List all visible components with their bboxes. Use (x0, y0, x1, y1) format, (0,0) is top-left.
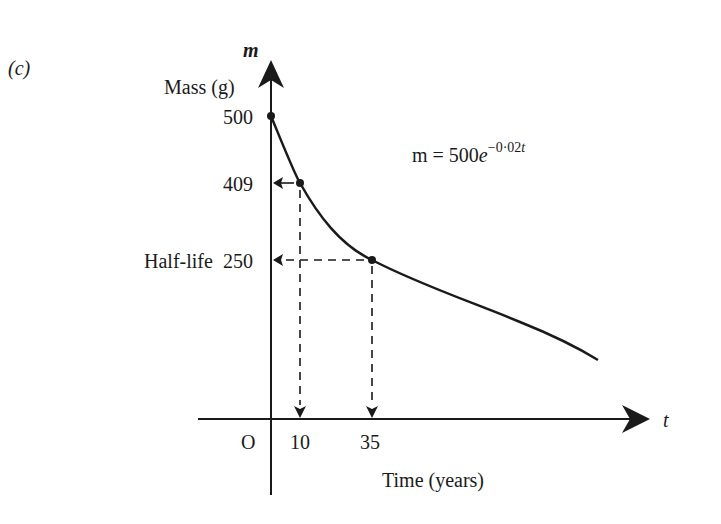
y-tick-500: 500 (223, 107, 253, 127)
equation-label: m = 500e−0·02t (412, 143, 525, 165)
y-axis-symbol: m (243, 40, 259, 60)
y-tick-250: 250 (223, 251, 253, 271)
y-tick-409: 409 (223, 174, 253, 194)
point-409 (296, 179, 304, 187)
part-label: (c) (8, 58, 30, 78)
point-500 (267, 112, 275, 120)
equation-base: e (479, 144, 488, 166)
x-tick-10: 10 (290, 432, 310, 452)
arrow-down-35-icon (366, 406, 378, 418)
arrow-down-10-icon (294, 406, 306, 418)
origin-label: O (241, 432, 255, 452)
x-axis-symbol: t (663, 410, 669, 430)
x-axis-title: Time (years) (382, 470, 484, 490)
y-axis-title: Mass (g) (164, 77, 235, 97)
point-250 (368, 256, 376, 264)
equation-exponent: −0·02 (488, 140, 522, 155)
arrow-left-250-icon (273, 254, 283, 266)
half-life-label: Half-life (144, 251, 213, 271)
x-tick-35: 35 (360, 432, 380, 452)
equation-lhs: m = 500 (412, 144, 479, 166)
equation-exp-var: t (521, 140, 525, 155)
